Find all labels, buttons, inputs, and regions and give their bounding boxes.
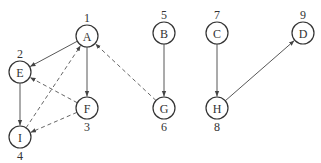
visit-order-label: 9: [300, 8, 306, 22]
edge-h-to-d: [225, 41, 294, 101]
nodes-layer: A1E2F3I4B5G6C7H8D9: [9, 8, 314, 163]
visit-order-label: 7: [214, 8, 220, 22]
node-label: D: [299, 27, 308, 41]
edge-f-to-e: [30, 77, 77, 102]
node-g: G6: [153, 97, 175, 134]
node-label: I: [18, 131, 22, 145]
node-label: H: [213, 102, 222, 116]
node-label: C: [213, 27, 221, 41]
edge-g-to-a: [95, 44, 156, 101]
node-h: H8: [206, 97, 228, 134]
node-label: G: [160, 102, 169, 116]
visit-order-label: 3: [84, 120, 90, 134]
edge-i-to-a: [26, 46, 81, 128]
visit-order-label: 5: [161, 8, 167, 22]
graph-diagram: A1E2F3I4B5G6C7H8D9: [0, 0, 321, 163]
visit-order-label: 4: [17, 149, 23, 163]
node-label: A: [83, 30, 92, 44]
edge-a-to-e: [30, 41, 77, 66]
visit-order-label: 8: [214, 120, 220, 134]
edges-layer: [20, 41, 294, 133]
visit-order-label: 6: [161, 120, 167, 134]
visit-order-label: 2: [17, 47, 23, 61]
node-label: B: [160, 27, 168, 41]
visit-order-label: 1: [84, 11, 90, 25]
node-label: E: [16, 66, 23, 80]
node-b: B5: [153, 8, 175, 44]
node-i: I4: [9, 126, 31, 163]
node-f: F3: [76, 97, 98, 134]
node-c: C7: [206, 8, 228, 44]
edge-f-to-i: [31, 112, 77, 132]
node-a: A1: [76, 11, 98, 47]
node-label: F: [84, 102, 91, 116]
node-d: D9: [292, 8, 314, 44]
node-e: E2: [9, 47, 31, 83]
